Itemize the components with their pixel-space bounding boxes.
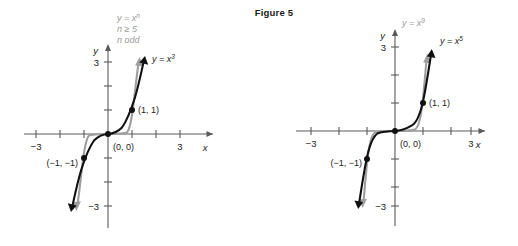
gray-curve-label-base: y = x xyxy=(401,18,422,28)
gray-label-line1-base: y = x xyxy=(116,13,137,23)
svg-text:y = xn: y = xn xyxy=(116,12,140,24)
point-marker-neg1-neg1 xyxy=(364,156,370,162)
graph-panel-right: −3 3 3 −3 y x (1, 1) ( xyxy=(259,0,518,246)
black-curve-label-exp: 3 xyxy=(171,53,175,60)
gray-curve-label-exp: 9 xyxy=(421,17,425,24)
gray-label-line2: n ≥ 5 xyxy=(117,24,138,34)
y-tick-label-neg3: −3 xyxy=(88,201,99,212)
gray-label-line3: n odd xyxy=(117,35,141,45)
black-curve-label-base: y = x xyxy=(439,36,460,46)
gray-curve-label-left: y = xn n ≥ 5 n odd xyxy=(116,12,141,46)
black-curve-arrow-top-right xyxy=(427,49,436,58)
x-axis-label: x xyxy=(475,139,482,150)
plot-right: −3 3 3 −3 y x (1, 1) ( xyxy=(259,0,518,246)
graph-panel-left: −3 3 3 −3 y x (1, 1) ( xyxy=(0,0,259,246)
svg-text:y = x5: y = x5 xyxy=(439,35,463,47)
axes-right xyxy=(296,29,485,226)
x-tick-label-neg3: −3 xyxy=(31,141,42,152)
x-tick-label-3: 3 xyxy=(468,138,473,149)
svg-text:y = x9: y = x9 xyxy=(401,17,425,29)
point-label-0-0: (0, 0) xyxy=(113,142,134,152)
y-tick-label-3: 3 xyxy=(94,57,99,68)
point-label-neg1-neg1: (−1, −1) xyxy=(330,158,362,168)
y-axis-arrowhead xyxy=(392,29,398,36)
point-marker-1-1 xyxy=(129,107,135,113)
point-marker-0-0 xyxy=(105,131,111,137)
point-marker-neg1-neg1 xyxy=(81,155,87,161)
point-label-0-0: (0, 0) xyxy=(400,139,421,149)
point-label-1-1: (1, 1) xyxy=(429,98,450,108)
point-label-1-1: (1, 1) xyxy=(138,105,159,115)
gray-label-line1-exp: n xyxy=(136,12,140,19)
y-axis-label: y xyxy=(92,45,99,56)
figure-container: Figure 5 xyxy=(0,0,518,246)
point-marker-1-1 xyxy=(420,100,426,106)
axes-left xyxy=(24,44,213,228)
x-axis-label: x xyxy=(202,142,209,153)
svg-text:y = x3: y = x3 xyxy=(151,53,175,65)
x-tick-label-3: 3 xyxy=(177,141,182,152)
point-label-neg1-neg1: (−1, −1) xyxy=(46,158,78,168)
black-curve-label-exp: 5 xyxy=(459,35,463,42)
y-axis-label: y xyxy=(379,30,386,41)
point-marker-0-0 xyxy=(392,128,398,134)
black-curve-label-left: y = x3 xyxy=(151,53,175,65)
y-axis-arrowhead xyxy=(105,44,111,51)
black-curve-label-right: y = x5 xyxy=(439,35,463,47)
black-curve-label-base: y = x xyxy=(151,54,172,64)
gray-curve-label-right: y = x9 xyxy=(401,17,425,29)
x-axis-arrowhead xyxy=(479,128,486,134)
x-axis-arrowhead xyxy=(207,131,214,137)
plot-left: −3 3 3 −3 y x (1, 1) ( xyxy=(0,0,259,246)
x-tick-label-neg3: −3 xyxy=(306,138,317,149)
y-tick-label-neg3: −3 xyxy=(375,201,386,212)
y-tick-label-3: 3 xyxy=(381,42,386,53)
